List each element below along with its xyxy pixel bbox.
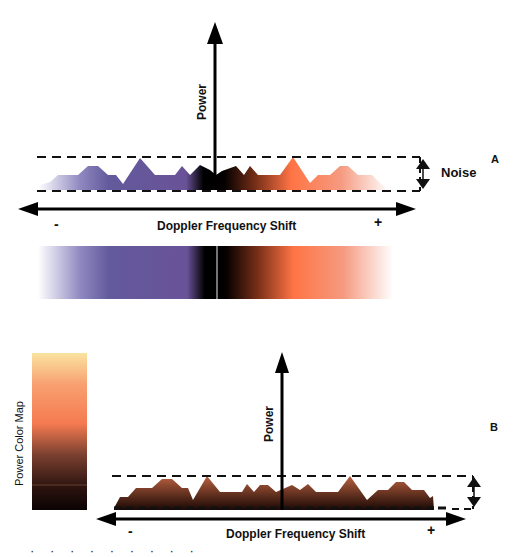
panel-a-x-arrowhead-left-icon <box>18 202 38 216</box>
panel-b-x-axis-label: Doppler Frequency Shift <box>226 527 365 541</box>
panel-a-noise-arrow-icon <box>416 159 430 189</box>
panel-b-x-arrowhead-right-icon <box>446 512 466 526</box>
panel-a-noise-label: Noise <box>441 165 476 180</box>
panel-b-color-map-label: Power Color Map <box>13 401 25 486</box>
panel-b-spectrum <box>114 476 434 510</box>
panel-a-spectrum <box>40 157 385 190</box>
panel-b-y-arrowhead-icon <box>275 352 289 373</box>
cropped-caption: · · · · · · · · · <box>0 549 514 557</box>
panel-b-y-axis-label: Power <box>262 406 276 442</box>
panel-b-x-arrowhead-left-icon <box>96 512 116 526</box>
cropped-caption-text: · · · · · · · · · <box>30 549 200 557</box>
panel-a-x-plus: + <box>374 214 382 230</box>
panel-b-color-map <box>32 353 87 510</box>
panel-a-color-bar <box>38 246 393 299</box>
panel-a: Noise A Power - + Doppler Frequency Shif… <box>18 22 499 299</box>
panel-b-x-plus: + <box>427 522 435 538</box>
panel-a-y-axis-label: Power <box>195 84 209 120</box>
panel-a-x-arrowhead-right-icon <box>396 202 416 216</box>
doppler-diagram: Noise A Power - + Doppler Frequency Shif… <box>0 0 514 557</box>
panel-a-label: A <box>491 153 499 165</box>
panel-a-x-axis-label: Doppler Frequency Shift <box>157 219 296 233</box>
panel-b-x-minus: - <box>128 523 133 539</box>
panel-b: Power Color Map B Power - + Doppler Freq… <box>13 352 498 541</box>
panel-a-y-arrowhead-icon <box>207 22 223 44</box>
panel-b-noise-arrow-icon <box>467 477 481 507</box>
panel-a-x-minus: - <box>54 216 59 232</box>
panel-b-label: B <box>490 421 498 433</box>
